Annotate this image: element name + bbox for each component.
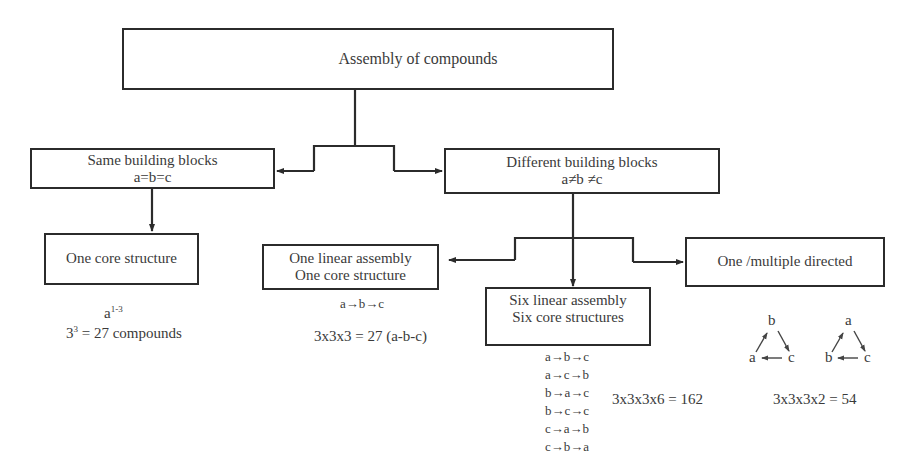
sequence-item: c→a→b <box>545 420 589 438</box>
cycle2-b-to-a <box>832 333 843 352</box>
six-linear-count: 3x3x3x6 = 162 <box>612 391 703 408</box>
cycle1-left-node: a <box>749 349 756 366</box>
formula-exponent: 1-3 <box>111 304 123 314</box>
node-six-linear-assembly: Six linear assembly Six core structures <box>485 287 651 346</box>
one-core-label: One core structure <box>66 250 177 267</box>
sequence-item: a→c→b <box>545 366 589 384</box>
count-rest: = 27 compounds <box>78 325 182 341</box>
sequence-item: b→c→c <box>545 402 589 420</box>
one-linear-sequence: a→b→c <box>340 295 384 313</box>
cycle2-a-to-c <box>854 331 865 351</box>
directed-count: 3x3x3x2 = 54 <box>773 391 856 408</box>
six-linear-line1: Six linear assembly <box>509 292 626 309</box>
root-node-assembly-of-compounds: Assembly of compounds <box>122 28 614 90</box>
six-linear-sequence-list: a→b→c a→c→b b→a→c b→c→c c→a→b c→b→a <box>545 348 589 456</box>
root-label: Assembly of compounds <box>338 50 497 68</box>
sequence-item: b→a→c <box>545 384 589 402</box>
cycle1-right-node: c <box>788 349 795 366</box>
different-title: Different building blocks <box>506 154 657 171</box>
one-linear-count: 3x3x3 = 27 (a-b-c) <box>314 328 427 345</box>
six-linear-line2: Six core structures <box>512 309 624 326</box>
same-condition: a=b=c <box>134 169 172 186</box>
different-condition: a≠b ≠c <box>561 171 602 188</box>
node-same-building-blocks: Same building blocks a=b=c <box>30 148 275 189</box>
count-base: 3 <box>66 325 74 341</box>
formula-base: a <box>104 305 111 321</box>
sequence-item: a→b→c <box>545 348 589 366</box>
one-linear-line2: One core structure <box>295 267 406 284</box>
cycle1-b-to-c <box>778 331 789 351</box>
cycle2-left-node: b <box>825 349 833 366</box>
node-one-linear-assembly: One linear assembly One core structure <box>262 244 439 290</box>
same-title: Same building blocks <box>88 152 218 169</box>
node-one-core-structure: One core structure <box>44 233 199 285</box>
cycle1-a-to-b <box>756 333 767 352</box>
root-step-line <box>314 146 394 171</box>
sequence-item: c→b→a <box>545 438 589 456</box>
cycle2-right-node: c <box>864 349 871 366</box>
same-formula: a1-3 <box>104 305 123 322</box>
node-one-multiple-directed: One /multiple directed <box>685 237 885 287</box>
one-linear-line1: One linear assembly <box>289 250 411 267</box>
cycle2-top-node: a <box>845 312 852 329</box>
node-different-building-blocks: Different building blocks a≠b ≠c <box>444 148 720 194</box>
cycle1-top-node: b <box>768 312 776 329</box>
same-count: 33 = 27 compounds <box>66 325 182 342</box>
directed-label: One /multiple directed <box>718 253 853 270</box>
